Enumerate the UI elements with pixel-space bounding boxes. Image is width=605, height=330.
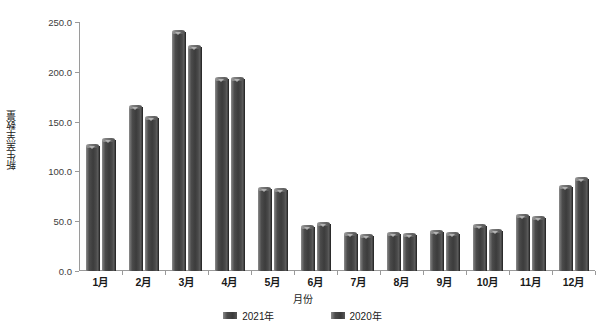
bar-group [380,22,423,271]
bar-group [337,22,380,271]
y-axis-tick [75,271,79,272]
x-axis-tick-label: 8月 [380,274,423,290]
legend-swatch-icon [331,312,345,319]
bar[interactable] [301,227,315,271]
bar[interactable] [258,189,272,271]
bar[interactable] [387,234,401,271]
bar-notch-icon [347,234,353,237]
x-axis-tick-labels: 1月2月3月4月5月6月7月8月9月10月11月12月 [79,274,595,290]
bar[interactable] [145,118,159,271]
x-axis-tick-label: 7月 [337,274,380,290]
bar[interactable] [231,79,245,271]
bar-notch-icon [89,146,95,149]
plot-area [79,22,595,271]
bar[interactable] [86,146,100,271]
y-axis-tick-label: 50.0 [54,216,73,227]
x-axis-tick-label: 5月 [251,274,294,290]
y-axis-tick-label: 200.0 [48,66,72,77]
x-axis-tick-label: 12月 [552,274,595,290]
bar-group [423,22,466,271]
bar-group [251,22,294,271]
bar-notch-icon [406,235,412,238]
bar-notch-icon [492,231,498,234]
y-axis-tick-labels: 0.050.0100.0150.0200.0250.0 [30,0,76,330]
legend-swatch-icon [223,312,237,319]
bar-notch-icon [105,140,111,143]
x-axis-tick-label: 4月 [208,274,251,290]
bar-group [294,22,337,271]
bar-notch-icon [449,234,455,237]
bar-group [165,22,208,271]
bar-notch-icon [191,47,197,50]
y-axis-title: 新生羔羊数量 [6,110,20,170]
bar[interactable] [188,47,202,271]
legend-item[interactable]: 2021年 [223,308,274,323]
bar[interactable] [360,236,374,271]
x-axis-tick [595,271,596,275]
bar-notch-icon [535,218,541,221]
bar-notch-icon [261,189,267,192]
x-axis-tick-label: 3月 [165,274,208,290]
x-axis-tick-label: 6月 [294,274,337,290]
bar[interactable] [473,226,487,271]
bar[interactable] [516,216,530,271]
bar-notch-icon [148,118,154,121]
bar-notch-icon [218,79,224,82]
bar-group [208,22,251,271]
bar[interactable] [344,234,358,271]
bar[interactable] [102,140,116,271]
bar-notch-icon [390,234,396,237]
bar-group [122,22,165,271]
bar[interactable] [532,218,546,271]
bar[interactable] [430,232,444,271]
bar[interactable] [215,79,229,271]
bar-group [466,22,509,271]
bar-notch-icon [578,179,584,182]
bar-groups [79,22,595,271]
bar[interactable] [403,235,417,271]
bar[interactable] [489,231,503,271]
bar[interactable] [446,234,460,271]
bar[interactable] [172,32,186,271]
bar[interactable] [317,224,331,271]
x-axis-tick-label: 2月 [122,274,165,290]
bar[interactable] [559,187,573,271]
bar-notch-icon [433,232,439,235]
bar-notch-icon [175,32,181,35]
chart-legend: 2021年2020年 [0,307,605,323]
x-axis-title: 月份 [0,291,605,306]
bar[interactable] [274,190,288,271]
bar-group [79,22,122,271]
x-axis-tick-label: 9月 [423,274,466,290]
bar-chart: 新生羔羊数量 0.050.0100.0150.0200.0250.0 1月2月3… [0,0,605,330]
y-axis-tick-label: 0.0 [59,266,72,277]
y-axis-tick-label: 150.0 [48,116,72,127]
x-axis-tick-label: 1月 [79,274,122,290]
bar[interactable] [129,107,143,271]
x-axis-tick-label: 10月 [466,274,509,290]
legend-label: 2021年 [242,308,274,323]
bar-notch-icon [304,227,310,230]
bar-notch-icon [277,190,283,193]
y-axis-tick-label: 250.0 [48,17,72,28]
legend-label: 2020年 [350,308,382,323]
bar-notch-icon [320,224,326,227]
legend-item[interactable]: 2020年 [331,308,382,323]
y-axis-tick-label: 100.0 [48,166,72,177]
bar-notch-icon [562,187,568,190]
bar-notch-icon [234,79,240,82]
bar-notch-icon [519,216,525,219]
x-axis-tick-label: 11月 [509,274,552,290]
bar-notch-icon [132,107,138,110]
bar[interactable] [575,179,589,271]
bar-notch-icon [476,226,482,229]
bar-group [509,22,552,271]
bar-group [552,22,595,271]
bar-notch-icon [363,236,369,239]
